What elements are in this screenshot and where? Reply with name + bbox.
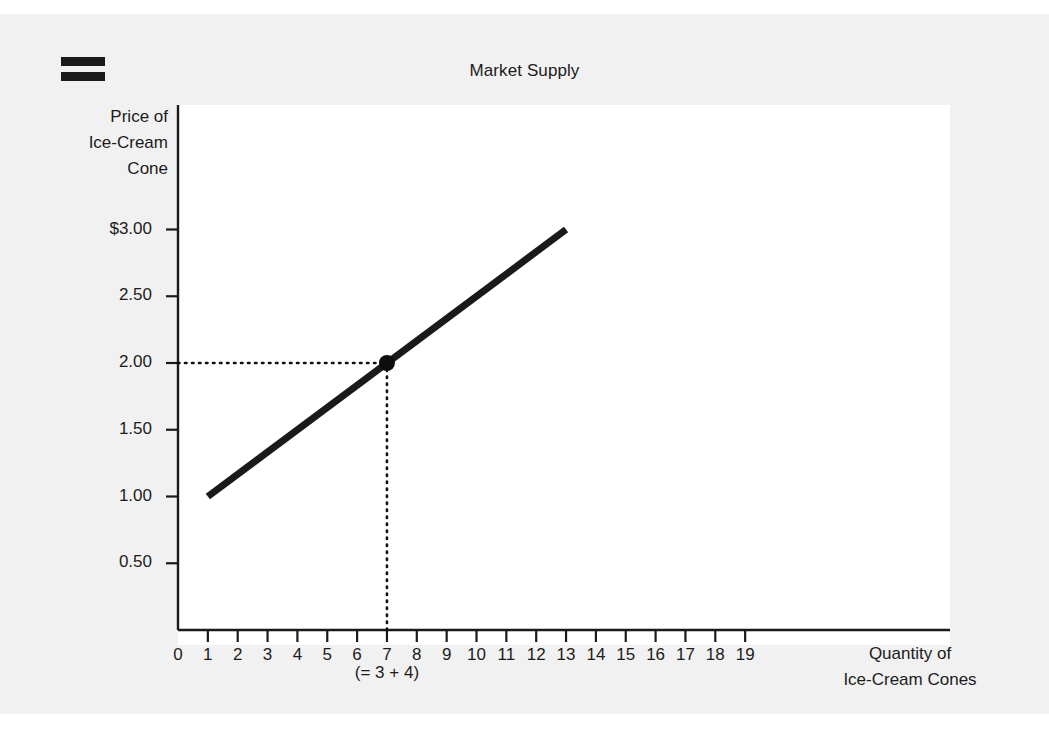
figure-page: Market Supply Price of Ice-Cream Cone Qu… [0,0,1049,730]
annotation-sum-note: (= 3 + 4) [317,663,457,683]
x-tick-label-5: 5 [312,645,342,665]
x-tick-label-14: 14 [581,645,611,665]
x-tick-label-17: 17 [670,645,700,665]
market-quantity-point [379,355,395,371]
x-tick-label-12: 12 [521,645,551,665]
x-tick-label-8: 8 [402,645,432,665]
x-tick-label-16: 16 [641,645,671,665]
y-tick-label-4: 2.50 [42,285,152,305]
x-tick-label-15: 15 [611,645,641,665]
x-tick-label-19: 19 [730,645,760,665]
x-tick-label-3: 3 [253,645,283,665]
y-tick-label-0: 0.50 [42,552,152,572]
y-tick-label-1: 1.00 [42,486,152,506]
y-tick-label-3: 2.00 [42,352,152,372]
chart-canvas [0,0,1049,730]
data-points [379,355,395,371]
x-tick-label-4: 4 [282,645,312,665]
x-tick-label-9: 9 [432,645,462,665]
x-tick-label-2: 2 [223,645,253,665]
x-tick-label-6: 6 [342,645,372,665]
y-tick-label-2: 1.50 [42,419,152,439]
x-tick-label-11: 11 [491,645,521,665]
x-tick-label-7: 7 [372,645,402,665]
axes [166,105,950,642]
x-tick-label-13: 13 [551,645,581,665]
y-tick-label-5: $3.00 [42,219,152,239]
x-tick-label-0: 0 [163,645,193,665]
x-tick-label-1: 1 [193,645,223,665]
x-tick-label-10: 10 [462,645,492,665]
x-tick-label-18: 18 [700,645,730,665]
